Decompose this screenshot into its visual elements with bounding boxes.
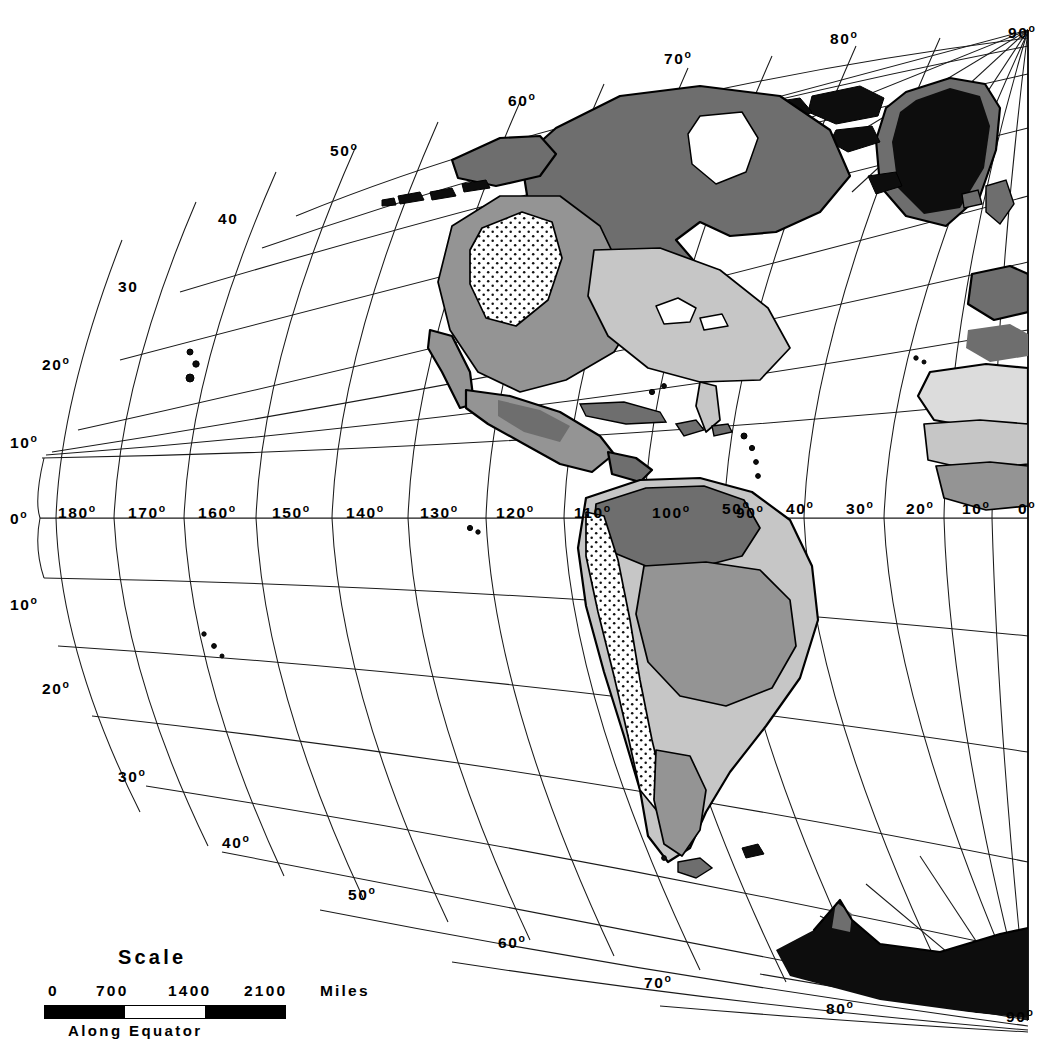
eastern-hemisphere-edge bbox=[914, 180, 1028, 510]
scale-bar-segment-3 bbox=[205, 1006, 285, 1018]
scale-tick-labels: 0 700 1400 2100 Miles bbox=[32, 982, 352, 1002]
scale-tick-0: 0 bbox=[48, 982, 59, 1000]
meridian-50 bbox=[992, 30, 1028, 1020]
label-lat-20s: 20o bbox=[42, 678, 70, 697]
caribbean-islands bbox=[580, 384, 760, 479]
scale-tick-2100: 2100 bbox=[244, 982, 287, 1000]
label-eq-20: 20o bbox=[906, 498, 934, 517]
meridian-180b bbox=[56, 240, 140, 812]
scale-bar-segment-2 bbox=[125, 1006, 205, 1018]
scale-tick-1400: 1400 bbox=[168, 982, 211, 1000]
label-lat-10s: 10o bbox=[10, 594, 38, 613]
galapagos-islands bbox=[467, 525, 480, 534]
scale-units-label: Miles bbox=[320, 982, 370, 1000]
landmasses bbox=[186, 78, 1028, 1020]
meridian-160 bbox=[184, 172, 284, 876]
label-top-60: 60o bbox=[508, 90, 536, 109]
label-top-90: 90o bbox=[1008, 22, 1036, 41]
south-america bbox=[578, 478, 818, 878]
label-lat-40n: 40 bbox=[218, 210, 238, 227]
polynesian-islands bbox=[202, 632, 224, 658]
label-eq-30: 30o bbox=[846, 498, 874, 517]
label-eq-10: 10o bbox=[962, 498, 990, 517]
scale-tick-700: 700 bbox=[96, 982, 128, 1000]
hawaiian-islands bbox=[186, 349, 199, 382]
label-bot-80: 80o bbox=[826, 998, 854, 1017]
map-canvas: 0o 180o 170o 160o 150o 140o 130o 120o 11… bbox=[0, 0, 1053, 1047]
scale-footer: Along Equator bbox=[68, 1022, 203, 1039]
label-bot-70: 70o bbox=[644, 972, 672, 991]
falkland-islands bbox=[742, 844, 764, 858]
scale-bar-segment-1 bbox=[45, 1006, 125, 1018]
label-lat-30s: 30o bbox=[118, 766, 146, 785]
meridian-140 bbox=[332, 122, 448, 922]
label-lat-40s: 40o bbox=[222, 832, 250, 851]
label-bot-90: 90o bbox=[1006, 1006, 1034, 1025]
label-lat-10n: 10o bbox=[10, 432, 38, 451]
antarctica bbox=[776, 900, 1028, 1020]
parallel-20s bbox=[58, 646, 1028, 752]
map-scale: Scale 0 700 1400 2100 Miles Along Equato… bbox=[22, 946, 352, 1042]
label-lat-30n: 30 bbox=[118, 278, 138, 295]
label-lat-50n: 50o bbox=[330, 140, 358, 159]
map-graphic: 0o 180o 170o 160o 150o 140o 130o 120o 11… bbox=[0, 0, 1053, 1047]
label-lat-50s: 50o bbox=[348, 884, 376, 903]
label-eq-0-right: 0o bbox=[1018, 498, 1036, 517]
meridian-170 bbox=[114, 202, 208, 846]
label-eq-40: 40o bbox=[786, 498, 814, 517]
parallel-10s bbox=[44, 578, 1028, 636]
scale-bar bbox=[44, 1005, 286, 1019]
label-eq-0-left: 0o bbox=[10, 508, 28, 527]
scale-title: Scale bbox=[118, 946, 186, 969]
label-lat-20n: 20o bbox=[42, 354, 70, 373]
aleutian-islands bbox=[382, 180, 490, 206]
label-top-80: 80o bbox=[830, 28, 858, 47]
label-top-70: 70o bbox=[664, 48, 692, 67]
meridian-150 bbox=[256, 146, 364, 900]
